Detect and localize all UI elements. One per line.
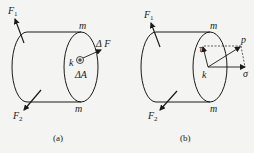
force-f2-arrow <box>160 91 177 110</box>
label-f2: F2 <box>147 110 158 123</box>
force-f2-arrow <box>24 90 41 110</box>
label-tau: τ <box>199 43 203 54</box>
stress-diagram: F1 F2 m m k Δ F ΔA (a) F1 F2 m m k p τ σ… <box>0 0 254 153</box>
label-f1: F1 <box>143 9 154 22</box>
figure-a: F1 F2 m m k Δ F ΔA (a) <box>7 5 111 143</box>
shear-stress-tau-arrow <box>203 47 208 67</box>
label-delta-f: Δ F <box>95 38 111 49</box>
label-f1: F1 <box>7 5 18 18</box>
caption-a: (a) <box>53 133 63 143</box>
caption-b: (b) <box>180 133 191 143</box>
label-m-top: m <box>210 20 217 31</box>
label-m-bottom: m <box>75 103 82 114</box>
delta-f-arrow <box>83 50 101 58</box>
dashed-right <box>241 46 245 67</box>
total-stress-p-arrow <box>208 47 240 67</box>
cylinder-left-end <box>12 32 27 102</box>
label-sigma: σ <box>243 68 249 79</box>
label-delta-a: ΔA <box>74 69 88 80</box>
figure-b: F1 F2 m m k p τ σ (b) <box>141 9 249 143</box>
label-k: k <box>202 69 207 80</box>
area-hatch-icon <box>78 58 82 62</box>
cylinder-left-end <box>141 32 156 102</box>
label-p: p <box>240 34 246 45</box>
label-f2: F2 <box>12 110 23 123</box>
force-f1-arrow <box>151 23 160 47</box>
force-f1-arrow <box>15 19 24 43</box>
label-m-bottom: m <box>210 103 217 114</box>
label-k: k <box>69 57 74 68</box>
label-m-top: m <box>79 20 86 31</box>
